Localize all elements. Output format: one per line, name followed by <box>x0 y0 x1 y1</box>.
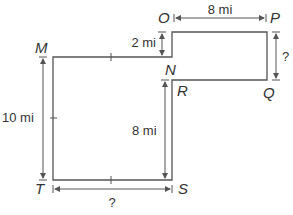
figure-outline <box>53 32 267 180</box>
dimension-mt: 10 mi <box>2 57 47 180</box>
vertex-label-o: O <box>158 9 170 26</box>
label-rs: 8 mi <box>132 123 157 138</box>
label-mt: 10 mi <box>2 110 34 125</box>
dimension-ts: ? <box>53 185 172 210</box>
dimension-op: 8 mi <box>174 2 266 22</box>
vertex-label-p: P <box>270 9 280 26</box>
label-on: 2 mi <box>131 35 156 50</box>
label-op: 8 mi <box>208 2 233 17</box>
vertex-label-m: M <box>35 39 48 56</box>
vertex-label-n: N <box>165 61 176 78</box>
dimension-on: 2 mi <box>131 32 166 55</box>
label-pq: ? <box>282 49 289 64</box>
vertex-label-r: R <box>177 82 188 99</box>
label-ts: ? <box>108 195 115 210</box>
vertex-label-s: S <box>178 180 188 197</box>
composite-figure-diagram: 8 mi 2 mi ? 10 mi 8 mi ? M N O P Q R S T <box>0 0 293 215</box>
dimension-rs: 8 mi <box>132 80 169 178</box>
dimension-pq: ? <box>272 32 289 80</box>
vertex-label-q: Q <box>263 84 275 101</box>
vertex-label-t: T <box>35 180 46 197</box>
